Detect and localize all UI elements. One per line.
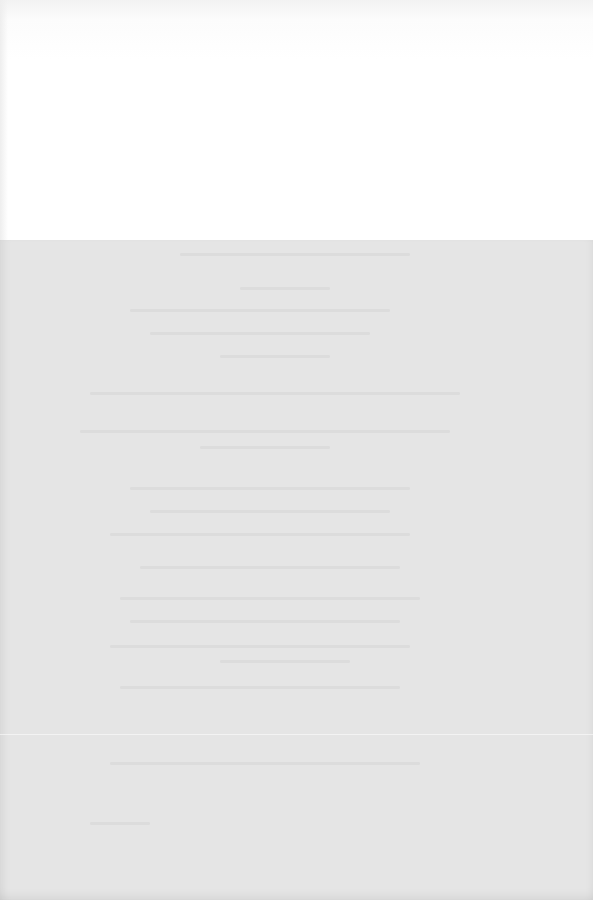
bleed-through-line [80,430,450,433]
bleed-through-line [130,487,410,490]
bleed-through-line [130,620,400,623]
bleed-through-line [90,392,460,395]
bleed-through-line [110,533,410,536]
bleed-through-line [120,686,400,689]
bleed-through-line [240,287,330,290]
bleed-through-line [220,660,350,663]
scanned-page-area [0,240,593,900]
bleed-through-line [220,355,330,358]
bleed-through-line [200,446,330,449]
bleed-through-line [150,510,390,513]
bleed-through-line [90,822,150,825]
bleed-through-line [150,332,370,335]
bleed-through-line [120,597,420,600]
bleed-through-line [110,762,420,765]
bleed-through-line [180,253,410,256]
bleed-through-line [130,309,390,312]
blank-page-top [0,0,593,240]
scan-crease [0,734,593,735]
bleed-through-line [140,566,400,569]
bleed-through-line [110,645,410,648]
